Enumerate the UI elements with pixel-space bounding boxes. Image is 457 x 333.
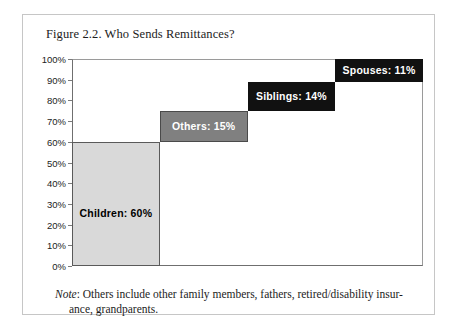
bar-label-others: Others: 15%	[172, 120, 235, 132]
y-axis-label: 90%	[47, 74, 66, 85]
y-axis-label: 100%	[42, 54, 66, 65]
y-axis-label: 10%	[47, 240, 66, 251]
y-axis-label: 40%	[47, 178, 66, 189]
figure-card: Figure 2.2. Who Sends Remittances? 100%9…	[22, 14, 435, 315]
figure-title: Figure 2.2. Who Sends Remittances?	[46, 27, 235, 42]
bar-children: Children: 60%	[72, 142, 160, 266]
y-axis-label: 20%	[47, 219, 66, 230]
y-axis-tick	[68, 80, 72, 81]
bar-label-children: Children: 60%	[80, 207, 153, 219]
bar-spouses: Spouses: 11%	[335, 59, 423, 82]
y-axis-label: 60%	[47, 136, 66, 147]
chart-plot-area: 100%90%80%70%60%50%40%30%20%10%0% Childr…	[72, 59, 423, 266]
figure-note: Note: Others include other family member…	[55, 287, 427, 317]
y-axis-tick	[68, 100, 72, 101]
y-axis-tick	[68, 266, 72, 267]
bar-label-siblings: Siblings: 14%	[256, 90, 327, 102]
bar-label-spouses: Spouses: 11%	[343, 64, 416, 76]
y-axis-label: 80%	[47, 95, 66, 106]
y-axis-tick	[68, 59, 72, 60]
y-axis-label: 50%	[47, 157, 66, 168]
note-line-1: Others include other family members, fat…	[83, 288, 403, 300]
y-axis-label: 0%	[52, 261, 66, 272]
y-axis-label: 30%	[47, 198, 66, 209]
bar-others: Others: 15%	[160, 111, 248, 142]
y-axis-label: 70%	[47, 116, 66, 127]
note-label: Note	[55, 288, 77, 300]
bar-siblings: Siblings: 14%	[248, 82, 336, 111]
y-axis-tick	[68, 121, 72, 122]
note-line-2: ance, grandparents.	[55, 302, 427, 317]
